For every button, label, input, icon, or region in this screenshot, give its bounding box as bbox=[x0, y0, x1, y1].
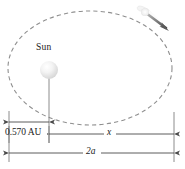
comet-head-icon bbox=[141, 8, 149, 16]
perihelion-distance-label: 0.570 AU bbox=[5, 128, 41, 138]
sun-label: Sun bbox=[36, 43, 51, 53]
major-axis-label: 2a bbox=[86, 147, 96, 157]
diagram-canvas bbox=[0, 0, 185, 169]
orbit-diagram: Sun 0.570 AU x 2a bbox=[0, 0, 185, 169]
distance-x-label: x bbox=[107, 128, 111, 138]
orbit-ellipse bbox=[8, 11, 172, 125]
sun-icon bbox=[40, 61, 58, 79]
